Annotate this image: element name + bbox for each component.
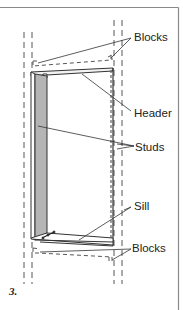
- figure-number: 3.: [9, 286, 17, 297]
- figure-border: [0, 8, 179, 310]
- label-studs: Studs: [135, 142, 164, 154]
- label-blocks-bottom: Blocks: [132, 243, 166, 255]
- label-sill: Sill: [134, 201, 149, 213]
- top-blocks: [33, 55, 112, 66]
- left-stud: [31, 72, 47, 240]
- label-blocks-top: Blocks: [134, 32, 168, 44]
- window-framing-diagram: Blocks Header Studs Sill Blocks 3.: [0, 0, 183, 310]
- label-header: Header: [134, 108, 172, 120]
- framing-illustration: [0, 0, 183, 310]
